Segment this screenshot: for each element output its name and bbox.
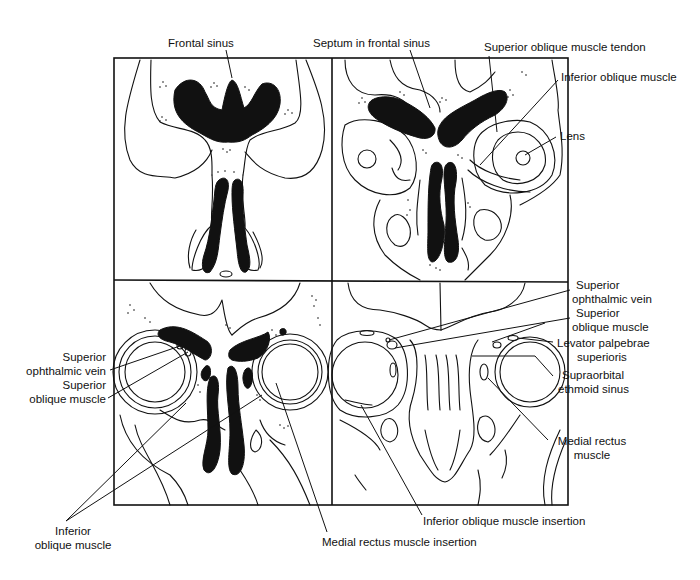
label-medial-rectus-insertion: Medial rectus muscle insertion bbox=[322, 535, 477, 549]
label-line-1: Superior bbox=[20, 378, 106, 392]
label-line-2: oblique muscle bbox=[572, 320, 649, 334]
label-line-2: muscle bbox=[550, 448, 634, 462]
label-line-2: ethmoid sinus bbox=[558, 382, 629, 396]
panel-frame bbox=[114, 58, 568, 505]
panel-top-left bbox=[125, 60, 325, 277]
label-supraorbital-ethmoid: Supraorbital ethmoid sinus bbox=[558, 368, 629, 396]
label-line-1: Superior bbox=[572, 278, 652, 292]
label-sup-oblique-left: Superior oblique muscle bbox=[20, 378, 106, 406]
label-frontal-sinus: Frontal sinus bbox=[168, 36, 234, 50]
label-sup-ophthalmic-vein-left: Superior ophthalmic vein bbox=[20, 350, 106, 378]
label-line-1: Inferior bbox=[28, 524, 118, 538]
leader-lines bbox=[66, 50, 570, 532]
label-inferior-oblique-top: Inferior oblique muscle bbox=[561, 70, 677, 84]
label-line-2: superioris bbox=[557, 350, 650, 364]
label-septum-frontal-sinus: Septum in frontal sinus bbox=[313, 36, 430, 50]
label-line-1: Superior bbox=[20, 350, 106, 364]
label-line-1: Supraorbital bbox=[558, 368, 629, 382]
anatomy-figure: Frontal sinus Septum in frontal sinus Su… bbox=[0, 0, 700, 580]
label-sup-oblique-right: Superior oblique muscle bbox=[572, 306, 649, 334]
panel-top-right bbox=[342, 60, 562, 280]
label-line-2: oblique muscle bbox=[20, 392, 106, 406]
label-line-2: oblique muscle bbox=[28, 538, 118, 552]
label-lens: Lens bbox=[560, 129, 585, 143]
label-inferior-oblique-bottom: Inferior oblique muscle bbox=[28, 524, 118, 552]
label-line-1: Superior bbox=[572, 306, 649, 320]
label-line-2: ophthalmic vein bbox=[572, 292, 652, 306]
label-inferior-oblique-insertion: Inferior oblique muscle insertion bbox=[423, 514, 585, 528]
label-levator-palpebrae: Levator palpebrae superioris bbox=[557, 336, 650, 364]
label-sup-ophthalmic-vein-right: Superior ophthalmic vein bbox=[572, 278, 652, 306]
panel-bottom-right bbox=[328, 283, 566, 505]
label-line-1: Levator palpebrae bbox=[557, 336, 650, 350]
label-superior-oblique-tendon: Superior oblique muscle tendon bbox=[484, 40, 646, 54]
label-medial-rectus: Medial rectus muscle bbox=[550, 434, 634, 462]
panel-bottom-left bbox=[113, 283, 328, 505]
label-line-1: Medial rectus bbox=[550, 434, 634, 448]
label-line-2: ophthalmic vein bbox=[20, 364, 106, 378]
